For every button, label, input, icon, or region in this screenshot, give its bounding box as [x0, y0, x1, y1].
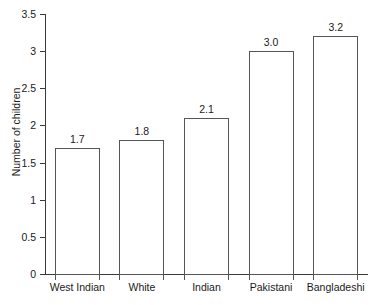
y-axis-line	[45, 14, 46, 275]
x-tick-mark	[99, 275, 100, 280]
x-category-label: Bangladeshi	[291, 281, 378, 293]
y-tick-mark	[40, 125, 46, 126]
bar-value-label: 3.0	[241, 37, 301, 48]
y-tick-label: 1	[6, 195, 36, 205]
x-tick-mark	[55, 275, 56, 280]
bar	[249, 51, 294, 275]
y-tick-mark	[40, 88, 46, 89]
x-tick-mark	[357, 275, 358, 280]
x-tick-mark	[228, 275, 229, 280]
x-tick-mark	[293, 275, 294, 280]
bar	[313, 36, 358, 275]
y-tick-mark	[40, 51, 46, 52]
y-tick-mark	[40, 200, 46, 201]
y-tick-mark	[40, 14, 46, 15]
y-tick-label: 2.5	[6, 83, 36, 93]
y-tick-label: 2	[6, 120, 36, 130]
bar-value-label: 1.8	[112, 126, 172, 137]
x-tick-mark	[184, 275, 185, 280]
bar	[184, 118, 229, 275]
bar-value-label: 2.1	[177, 104, 237, 115]
y-tick-label: 0	[6, 269, 36, 279]
y-tick-mark	[40, 274, 46, 275]
y-tick-label: 0.5	[6, 232, 36, 242]
y-tick-mark	[40, 163, 46, 164]
x-tick-mark	[249, 275, 250, 280]
bar	[55, 148, 100, 275]
y-tick-label: 1.5	[6, 158, 36, 168]
bar-value-label: 3.2	[306, 22, 366, 33]
y-tick-mark	[40, 237, 46, 238]
x-tick-mark	[119, 275, 120, 280]
bar	[119, 140, 164, 275]
bar-chart: Number of children 00.511.522.533.5 1.7W…	[0, 0, 378, 305]
y-tick-label: 3	[6, 46, 36, 56]
y-tick-label: 3.5	[6, 9, 36, 19]
x-tick-mark	[163, 275, 164, 280]
x-tick-mark	[313, 275, 314, 280]
bar-value-label: 1.7	[47, 134, 107, 145]
